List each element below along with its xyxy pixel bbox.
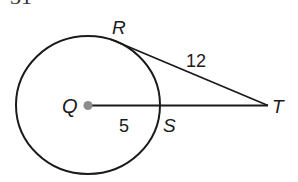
label-q: Q: [62, 95, 78, 117]
problem-number-fragment: 31: [10, 0, 32, 9]
tangent-segment-rt: [110, 39, 268, 106]
center-point-q: [84, 101, 93, 110]
label-t: T: [272, 96, 285, 117]
label-radius-length: 5: [119, 116, 129, 136]
geometry-diagram: 31 Q R S T 12 5: [0, 0, 298, 182]
label-tangent-length: 12: [186, 51, 206, 71]
label-r: R: [112, 17, 126, 38]
label-s: S: [163, 115, 176, 136]
